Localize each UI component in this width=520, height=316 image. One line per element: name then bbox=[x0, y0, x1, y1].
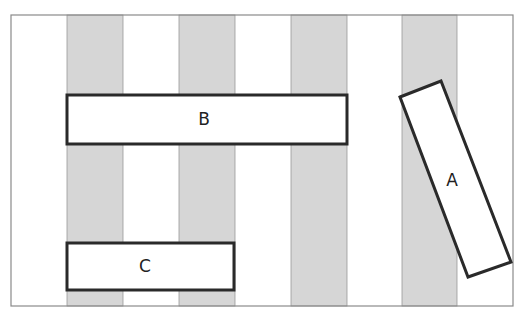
box-c: C bbox=[67, 243, 234, 290]
stripe-3 bbox=[291, 15, 347, 306]
box-b-label: B bbox=[198, 109, 210, 129]
box-b: B bbox=[67, 95, 347, 144]
stripes-and-boxes-diagram: BCA bbox=[0, 0, 520, 316]
box-a-label: A bbox=[446, 170, 458, 190]
diagram-canvas: BCA bbox=[0, 0, 520, 316]
box-c-label: C bbox=[139, 256, 151, 276]
